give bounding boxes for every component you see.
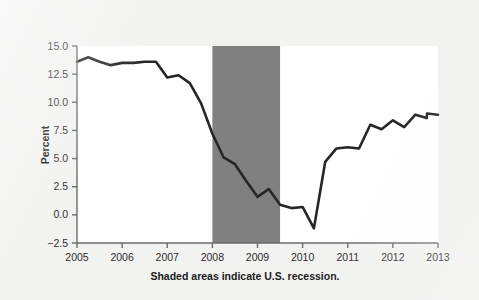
y-tick-label: 0.0 [53,208,68,220]
x-tick-label: 2007 [156,251,180,263]
y-axis-ticks [72,46,77,243]
y-tick-label: 5.0 [53,152,68,164]
x-tick-label: 2013 [426,251,450,263]
x-axis-tick-labels: 200520062007200820092010201120122013 [65,251,450,263]
x-tick-label: 2010 [291,251,315,263]
percent-change-line-chart: 15.012.510.07.55.02.50.0−2.5 20052006200… [0,0,479,300]
chart-figure: 15.012.510.07.55.02.50.0−2.5 20052006200… [0,0,479,300]
y-axis-label: Percent [39,125,51,164]
y-tick-label: −2.5 [47,237,68,249]
x-tick-label: 2012 [381,251,405,263]
y-tick-label: 15.0 [48,40,69,52]
x-axis-ticks [77,243,438,248]
recession-shaded-region [212,46,280,243]
x-tick-label: 2005 [65,251,89,263]
y-tick-label: 12.5 [48,68,69,80]
chart-caption: Shaded areas indicate U.S. recession. [150,270,339,282]
x-tick-label: 2011 [336,251,359,263]
y-tick-label: 10.0 [48,96,69,108]
x-tick-label: 2006 [110,251,134,263]
x-tick-label: 2009 [246,251,270,263]
y-tick-label: 2.5 [53,180,68,192]
x-tick-label: 2008 [201,251,225,263]
y-tick-label: 7.5 [53,124,68,136]
